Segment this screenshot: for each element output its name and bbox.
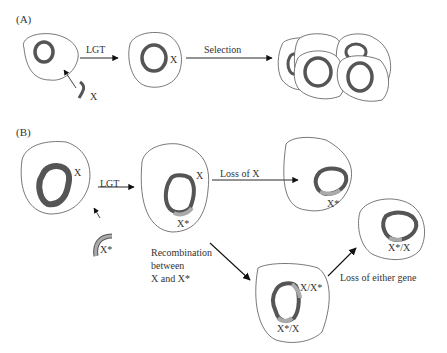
uptake-arrow-b [94,208,100,218]
cell5-gene-label: X*/X [388,242,410,253]
lgt-label-a: LGT [86,44,105,55]
cell2-gene-top-label: X [196,170,203,181]
lgt-label-b: LGT [100,178,119,189]
cell2-gene-label-a: X [170,54,177,65]
donor-gene-label: X* [100,244,112,255]
cell1-gene-label-b: X [74,167,81,178]
panel-a-label: (A) [16,14,31,25]
loss-of-either-label: Loss of either gene [340,272,416,283]
cell4-gene-top-label: X/X* [300,282,322,293]
cell2-gene-bottom-label: X* [177,218,189,229]
selection-label: Selection [204,44,241,55]
recombination-arrow [210,243,250,280]
recombination-label-1: Recombination [151,247,212,258]
chromosome-icon [35,42,53,62]
donor-dna-fragment [79,82,84,98]
gene-x-label: X [90,91,97,102]
panel-b-label: (B) [16,127,31,138]
cell3-gene-label: X* [327,198,339,209]
cell4-gene-bottom-label: X*/X [277,323,299,334]
recombination-label-2: between [151,260,184,271]
panel-b-cell-3 [284,137,352,210]
selected-cell-colony [278,34,390,102]
panel-a-cell-1 [23,34,78,81]
loss-of-x-label: Loss of X [220,168,259,179]
recombination-label-3: X and X* [151,273,190,284]
panel-b-cell-2 [141,144,208,232]
